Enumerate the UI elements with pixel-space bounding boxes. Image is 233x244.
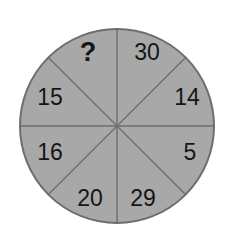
sector-label-left-lower: 16 xyxy=(37,141,63,164)
sector-label-bottom-left: 20 xyxy=(77,187,103,210)
sector-label-bottom-right: 29 xyxy=(130,187,156,210)
sector-label-right-lower: 5 xyxy=(184,141,197,164)
sector-label-left-upper: 15 xyxy=(37,86,63,109)
number-wheel-figure: ? 30 14 5 29 20 16 15 xyxy=(0,0,233,244)
sector-label-top-left: ? xyxy=(80,39,97,66)
wheel-graphic xyxy=(0,0,233,244)
wheel-spokes xyxy=(20,29,214,223)
sector-label-right-upper: 14 xyxy=(174,86,200,109)
sector-label-top-right: 30 xyxy=(134,41,160,64)
